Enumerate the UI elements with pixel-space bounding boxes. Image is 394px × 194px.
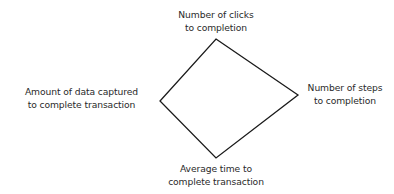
label-bottom-average-time: Average time to complete transaction (155, 163, 277, 188)
diamond-shape (160, 39, 298, 158)
label-right-steps: Number of steps to completion (296, 82, 394, 107)
label-left-data-captured: Amount of data captured to complete tran… (4, 86, 159, 111)
label-top-line1: Number of clicks (158, 9, 274, 22)
label-left-line1: Amount of data captured (4, 86, 159, 99)
label-bottom-line2: complete transaction (155, 176, 277, 189)
label-left-line2: to complete transaction (4, 99, 159, 112)
label-right-line2: to completion (296, 95, 394, 108)
label-bottom-line1: Average time to (155, 163, 277, 176)
label-top-clicks: Number of clicks to completion (158, 9, 274, 34)
label-right-line1: Number of steps (296, 82, 394, 95)
label-top-line2: to completion (158, 22, 274, 35)
